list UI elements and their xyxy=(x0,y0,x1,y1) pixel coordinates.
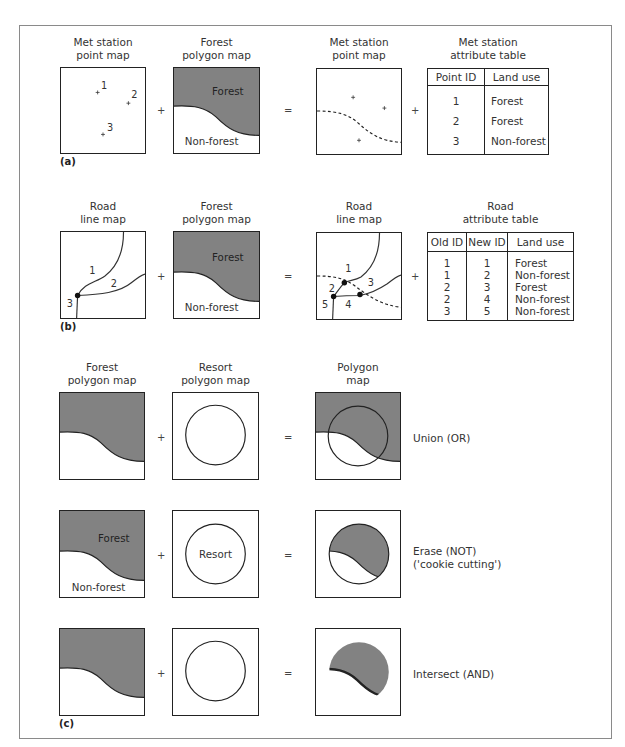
plus-operator: + xyxy=(157,271,165,282)
title-line: Road xyxy=(60,200,146,213)
operation-label-union: Union (OR) xyxy=(413,432,470,445)
forest-polygon-map xyxy=(59,392,145,480)
cell-old-id: 2 xyxy=(428,281,466,293)
cell-land-use: Forest xyxy=(515,257,547,269)
title-line: polygon map xyxy=(173,213,260,226)
road-line-map: 1 2 3 xyxy=(60,231,146,319)
forest-polygon-map xyxy=(59,628,145,716)
erase-result-map xyxy=(315,510,401,598)
resort-polygon-map xyxy=(172,628,259,716)
panel-b-map1-title: Road line map xyxy=(60,200,146,226)
column-header-point-id: Point ID xyxy=(428,69,485,86)
segment-label-2: 2 xyxy=(329,283,335,294)
panel-label-a: (a) xyxy=(60,156,76,167)
title-line: Forest xyxy=(173,36,260,49)
title-line: Road xyxy=(427,200,574,213)
segment-label-1: 1 xyxy=(345,263,351,274)
equals-operator: = xyxy=(284,105,292,116)
plus-operator: + xyxy=(157,668,165,679)
cell-land-use: Non-forest xyxy=(491,135,546,147)
met-station-result-map xyxy=(316,68,402,155)
road-attribute-table: Old ID New ID Land use 1 1 Forest 1 2 No… xyxy=(427,232,574,321)
segment-label-5: 5 xyxy=(322,299,328,310)
panel-a-map2-title: Forest polygon map xyxy=(173,36,260,62)
panel-label-c: (c) xyxy=(59,718,74,729)
cell-land-use: Non-forest xyxy=(515,305,570,317)
title-line: line map xyxy=(316,213,402,226)
segment-label-1: 1 xyxy=(89,265,95,276)
equals-operator: = xyxy=(284,271,292,282)
title-line: Met station xyxy=(316,36,402,49)
cell-land-use: Forest xyxy=(491,95,523,107)
operation-label-line: Erase (NOT) xyxy=(413,545,501,558)
title-line: map xyxy=(315,374,401,387)
forest-label: Forest xyxy=(212,85,243,97)
cell-point-id: 2 xyxy=(428,115,484,127)
road-overlay-graphic: 1 2 3 4 5 xyxy=(317,233,401,319)
column-divider xyxy=(484,86,485,154)
union-graphic xyxy=(316,393,400,479)
title-line: Forest xyxy=(173,200,260,213)
intersect-result-map xyxy=(315,628,401,716)
title-line: Forest xyxy=(59,361,145,374)
forest-polygon-graphic: Forest Non-forest xyxy=(174,68,259,153)
resort-polygon-graphic: Resort xyxy=(173,511,258,597)
point-overlay-graphic xyxy=(317,69,401,154)
forest-label: Forest xyxy=(98,532,129,544)
nonforest-label: Non-forest xyxy=(185,301,239,313)
nonforest-label: Non-forest xyxy=(72,581,126,593)
resort-polygon-graphic xyxy=(173,629,258,715)
panel-b-table-title: Road attribute table xyxy=(427,200,574,226)
point-label-3: 3 xyxy=(107,122,113,133)
panel-c-col3-title: Polygon map xyxy=(315,361,401,387)
title-line: polygon map xyxy=(59,374,145,387)
cell-land-use: Forest xyxy=(491,115,523,127)
panel-label-b: (b) xyxy=(60,321,76,332)
operation-label-intersect: Intersect (AND) xyxy=(413,668,494,681)
panel-b-map2-title: Forest polygon map xyxy=(173,200,260,226)
panel-a-map3-title: Met station point map xyxy=(316,36,402,62)
panel-a-map1-title: Met station point map xyxy=(60,36,146,62)
cell-land-use: Non-forest xyxy=(515,293,570,305)
title-line: attribute table xyxy=(427,213,574,226)
title-line: Met station xyxy=(60,36,146,49)
forest-polygon-map: Forest Non-forest xyxy=(59,510,145,598)
plus-operator: + xyxy=(157,105,165,116)
forest-polygon-map: Forest Non-forest xyxy=(173,231,260,319)
plus-operator: + xyxy=(411,105,419,116)
segment-label-3: 3 xyxy=(368,277,374,288)
forest-polygon-graphic xyxy=(60,393,144,479)
cell-point-id: 1 xyxy=(428,95,484,107)
resort-label: Resort xyxy=(199,548,232,560)
resort-polygon-graphic xyxy=(173,393,258,479)
cell-old-id: 3 xyxy=(428,305,466,317)
cell-new-id: 2 xyxy=(467,269,507,281)
segment-label-2: 2 xyxy=(111,278,117,289)
cell-land-use: Forest xyxy=(515,281,547,293)
resort-polygon-map xyxy=(172,392,259,480)
segment-label-4: 4 xyxy=(345,299,351,310)
title-line: point map xyxy=(316,49,402,62)
road-line-graphic: 1 2 3 xyxy=(61,232,145,318)
plus-operator: + xyxy=(411,271,419,282)
union-result-map xyxy=(315,392,401,480)
operation-label-erase: Erase (NOT) ('cookie cutting') xyxy=(413,545,501,571)
erase-graphic xyxy=(316,511,400,597)
road-line-result-map: 1 2 3 4 5 xyxy=(316,232,402,320)
title-line: attribute table xyxy=(427,49,549,62)
title-line: line map xyxy=(60,213,146,226)
cell-new-id: 4 xyxy=(467,293,507,305)
cell-new-id: 3 xyxy=(467,281,507,293)
forest-polygon-map: Forest Non-forest xyxy=(173,67,260,154)
segment-label-3: 3 xyxy=(67,298,73,309)
panel-b-map3-title: Road line map xyxy=(316,200,402,226)
panel-a-table-title: Met station attribute table xyxy=(427,36,549,62)
column-header-land-use: Land use xyxy=(508,233,573,252)
column-header-new-id: New ID xyxy=(467,233,508,252)
met-station-attribute-table: Point ID Land use 1 Forest 2 Forest 3 No… xyxy=(427,68,549,155)
forest-polygon-graphic: Forest Non-forest xyxy=(60,511,144,597)
point-label-1: 1 xyxy=(101,80,107,91)
title-line: Met station xyxy=(427,36,549,49)
equals-operator: = xyxy=(284,668,292,679)
title-line: polygon map xyxy=(172,374,259,387)
